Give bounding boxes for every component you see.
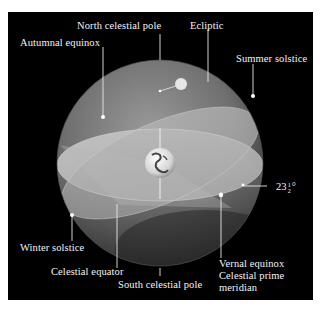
label-ecliptic: Ecliptic	[190, 20, 223, 31]
label-north-celestial-pole: North celestial pole	[77, 20, 161, 31]
label-tilt-angle: 2312°	[276, 181, 296, 194]
label-south-celestial-pole: South celestial pole	[118, 279, 202, 290]
label-celestial-equator: Celestial equator	[51, 266, 124, 277]
tilt-fraction-denominator: 2	[288, 188, 291, 194]
earth-globe	[145, 148, 175, 178]
sun-marker	[175, 78, 187, 90]
label-celestial-prime-meridian-2: meridian	[219, 282, 257, 293]
tilt-fraction-numerator: 1	[288, 182, 291, 188]
tilt-angle-unit: °	[292, 181, 296, 192]
label-summer-solstice: Summer solstice	[236, 53, 307, 64]
tilt-angle-fraction: 12	[288, 182, 291, 194]
tilt-angle-value: 23	[276, 181, 287, 192]
label-celestial-prime-meridian-1: Celestial prime	[219, 270, 284, 281]
label-winter-solstice: Winter solstice	[20, 242, 84, 253]
label-autumnal-equinox: Autumnal equinox	[20, 37, 100, 48]
label-vernal-equinox: Vernal equinox	[219, 258, 284, 269]
